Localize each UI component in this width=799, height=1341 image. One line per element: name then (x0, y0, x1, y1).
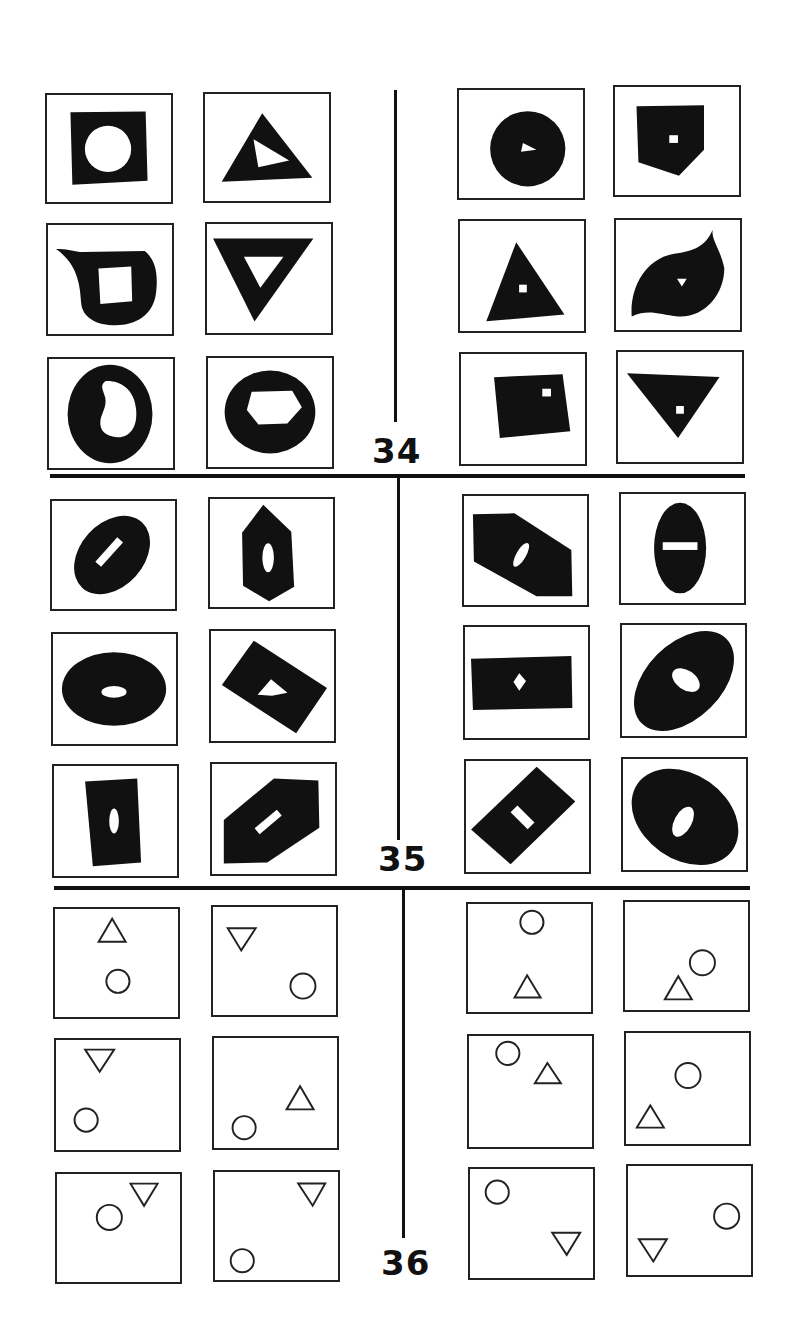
problem-34-left-panel-2 (203, 92, 331, 203)
problem-35-right-panel-3 (463, 625, 590, 740)
problem-35-left-panel-4 (209, 629, 336, 743)
problem-35-left-panel-6 (210, 762, 337, 876)
problem-34-left-panel-6 (206, 356, 334, 469)
black-inverted-triangle-white-triangle-icon (207, 224, 331, 333)
problem-number-35: 35 (378, 842, 427, 876)
black-teardrop-white-square-icon (48, 225, 172, 334)
black-vertical-rectangle-vertical-oval-icon (54, 766, 177, 876)
black-pentagon-tiny-square-icon (615, 87, 739, 195)
triangle-up-bottomleft-circle-center-icon (626, 1033, 749, 1144)
black-triangle-tiny-square-icon (460, 221, 584, 331)
problem-35-left-panel-5 (52, 764, 179, 878)
problem-36-right-panel-2 (623, 900, 750, 1012)
problem-35-right-panel-5 (464, 759, 591, 874)
black-square-white-circle-icon (47, 95, 171, 202)
center-divider-35 (397, 478, 400, 840)
problem-35-left-panel-1 (50, 499, 177, 611)
problem-34-left-panel-5 (47, 357, 175, 470)
bongard-problems-page: 34 35 36 (0, 0, 799, 1341)
black-inverted-triangle-tiny-square-icon (618, 352, 742, 462)
black-ellipse-white-hexagon-icon (208, 358, 332, 467)
black-quad-tiny-square-icon (461, 354, 585, 464)
problem-36-right-panel-6 (626, 1164, 753, 1277)
black-tilted-ellipse-perpendicular-oval-icon (622, 625, 745, 736)
black-circle-white-kidney-icon (49, 359, 173, 468)
problem-number-34: 34 (372, 434, 421, 468)
triangle-down-bottomleft-circle-right-icon (628, 1166, 751, 1275)
problem-34-right-panel-1 (457, 88, 585, 200)
problem-36-right-panel-1 (466, 902, 593, 1014)
problem-34-right-panel-5 (459, 352, 587, 466)
center-divider-34 (394, 90, 397, 422)
black-tilted-hexagon-aligned-bar-icon (212, 764, 335, 874)
problem-36-left-panel-5 (55, 1172, 182, 1284)
problem-35-right-panel-6 (621, 757, 748, 872)
problem-34-right-panel-4 (614, 218, 742, 332)
problem-35-right-panel-2 (619, 492, 746, 605)
black-tilted-rectangle-diamond-icon (211, 631, 334, 741)
triangle-up-bottom-circle-top-icon (468, 904, 591, 1012)
black-hexagon-vertical-oval-icon (210, 499, 333, 607)
triangle-up-bottomcenter-circle-right-icon (625, 902, 748, 1010)
problem-36-right-panel-4 (624, 1031, 751, 1146)
problem-36-right-panel-5 (468, 1167, 595, 1280)
problem-35-right-panel-4 (620, 623, 747, 738)
triangle-down-topright-circle-centerleft-icon (57, 1174, 180, 1282)
problem-36-left-panel-1 (53, 907, 180, 1019)
black-circle-tiny-triangle-icon (459, 90, 583, 198)
triangle-up-top-circle-bottom-icon (55, 909, 178, 1017)
black-horizontal-rectangle-small-diamond-icon (465, 627, 588, 738)
problem-34-right-panel-6 (616, 350, 744, 464)
problem-36-left-panel-4 (212, 1036, 339, 1150)
triangle-down-bottomright-circle-topleft-icon (470, 1169, 593, 1278)
problem-36-left-panel-6 (213, 1170, 340, 1282)
black-tilted-rectangle-perpendicular-bar-icon (466, 761, 589, 872)
problem-35-left-panel-2 (208, 497, 335, 609)
triangle-down-topleft-circle-bottomright-icon (213, 907, 336, 1015)
black-tilted-ellipse-perpendicular-oval-2-icon (623, 759, 746, 870)
black-vertical-ellipse-horizontal-bar-icon (621, 494, 744, 603)
triangle-up-topcenter-circle-topleft-icon (469, 1036, 592, 1147)
problem-36-left-panel-3 (54, 1038, 181, 1152)
triangle-down-topright-circle-bottomleft-icon (215, 1172, 338, 1280)
problem-number-36: 36 (381, 1246, 430, 1280)
problem-34-left-panel-4 (205, 222, 333, 335)
problem-34-right-panel-3 (458, 219, 586, 333)
black-triangle-white-quad-icon (205, 94, 329, 201)
black-tilted-ellipse-aligned-bar-icon (52, 501, 175, 609)
problem-34-left-panel-1 (45, 93, 173, 204)
problem-34-right-panel-2 (613, 85, 741, 197)
problem-35-right-panel-1 (462, 494, 589, 607)
center-divider-36 (402, 890, 405, 1238)
black-horizontal-ellipse-horizontal-oval-icon (53, 634, 176, 744)
problem-36-right-panel-3 (467, 1034, 594, 1149)
problem-34-left-panel-3 (46, 223, 174, 336)
triangle-down-topleft-circle-bottomleft-icon (56, 1040, 179, 1150)
problem-36-left-panel-2 (211, 905, 338, 1017)
black-leaf-tiny-triangle-icon (616, 220, 740, 330)
triangle-up-right-circle-bottomleft-icon (214, 1038, 337, 1148)
black-tilted-hexagon-perpendicular-oval-icon (464, 496, 587, 605)
problem-35-left-panel-3 (51, 632, 178, 746)
